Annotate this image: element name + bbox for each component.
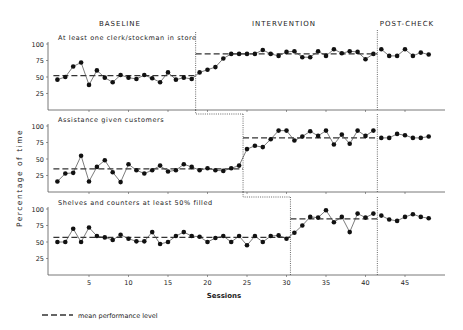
axes-common: Percentage of time Sessions: [15, 129, 241, 300]
data-point: [87, 83, 92, 88]
panel-3: 25507510051015202530354045Shelves and co…: [32, 192, 445, 287]
panel-title: At least one clerk/stockman in store: [58, 34, 197, 42]
data-point: [387, 136, 392, 141]
data-point: [142, 73, 147, 78]
phase-label-baseline: BASELINE: [99, 20, 141, 28]
data-point: [284, 236, 289, 241]
data-point: [245, 147, 250, 152]
data-point: [419, 50, 424, 55]
data-point: [134, 239, 139, 244]
data-point: [87, 179, 92, 184]
data-point: [292, 49, 297, 54]
data-point: [237, 163, 242, 168]
data-point: [300, 223, 305, 228]
data-point: [166, 70, 171, 75]
data-point: [403, 133, 408, 138]
data-point: [197, 168, 202, 173]
data-point: [276, 128, 281, 133]
data-point: [316, 134, 321, 139]
data-point: [79, 153, 84, 158]
y-tick-label: 25: [36, 255, 44, 263]
y-tick-label: 100: [32, 123, 44, 131]
data-point: [213, 236, 218, 241]
y-tick-label: 100: [32, 41, 44, 49]
data-point: [174, 234, 179, 239]
data-point: [253, 52, 258, 57]
data-point: [237, 52, 242, 57]
data-point: [332, 220, 337, 225]
data-point: [371, 52, 376, 57]
data-point: [324, 208, 329, 213]
data-point: [324, 128, 329, 133]
data-point: [363, 57, 368, 62]
data-point: [387, 54, 392, 59]
data-point: [363, 134, 368, 139]
data-point: [355, 50, 360, 55]
data-point: [426, 52, 431, 57]
y-tick-label: 75: [36, 222, 44, 230]
data-point: [221, 56, 226, 61]
data-point: [110, 238, 115, 243]
data-point: [205, 166, 210, 171]
data-point: [245, 52, 250, 57]
data-point: [142, 171, 147, 176]
data-point: [355, 211, 360, 216]
data-point: [316, 215, 321, 220]
data-point: [426, 134, 431, 139]
data-point: [174, 168, 179, 173]
panel-title: Assistance given customers: [58, 116, 164, 124]
data-point: [253, 144, 258, 149]
data-point: [268, 234, 273, 239]
data-point: [205, 240, 210, 245]
data-point: [261, 240, 266, 245]
data-point: [150, 230, 155, 235]
data-point: [118, 180, 123, 185]
data-point: [324, 54, 329, 59]
data-point: [213, 65, 218, 70]
data-point: [110, 80, 115, 85]
data-point: [308, 215, 313, 220]
data-point: [182, 75, 187, 80]
data-point: [276, 233, 281, 238]
data-point: [221, 234, 226, 239]
data-point: [110, 170, 115, 175]
data-point: [292, 230, 297, 235]
data-point: [347, 142, 352, 147]
phase-label-intervention: INTERVENTION: [252, 20, 316, 28]
data-point: [95, 68, 100, 73]
data-point: [174, 77, 179, 82]
data-point: [229, 166, 234, 171]
data-point: [379, 136, 384, 141]
panel-1: 255075100At least one clerk/stockman in …: [32, 30, 445, 112]
phase-label-postcheck: POST-CHECK: [380, 20, 434, 28]
data-point: [55, 77, 60, 82]
data-point: [134, 168, 139, 173]
data-point: [395, 219, 400, 224]
data-point: [142, 239, 147, 244]
panel-title: Shelves and counters at least 50% filled: [58, 199, 213, 207]
data-point: [126, 162, 131, 167]
data-point: [300, 134, 305, 139]
data-point: [268, 137, 273, 142]
data-point: [308, 55, 313, 60]
data-point: [419, 136, 424, 141]
data-point: [340, 51, 345, 56]
y-tick-label: 50: [36, 239, 44, 247]
data-point: [411, 54, 416, 59]
data-point: [379, 47, 384, 52]
data-point: [189, 165, 194, 170]
data-point: [245, 243, 250, 248]
legend-label: mean performance level: [78, 312, 158, 320]
data-point: [182, 162, 187, 167]
data-point: [371, 211, 376, 216]
data-point: [189, 77, 194, 82]
data-point: [379, 213, 384, 218]
data-point: [332, 142, 337, 147]
y-tick-label: 25: [36, 172, 44, 180]
data-point: [316, 49, 321, 54]
x-tick-label: 20: [203, 279, 211, 287]
data-point: [126, 236, 131, 241]
data-point: [103, 158, 108, 163]
data-point: [355, 128, 360, 133]
data-point: [403, 47, 408, 52]
